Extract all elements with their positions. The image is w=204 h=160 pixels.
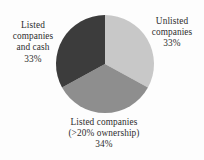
pie-label-listed-companies-ownership-value: 34% — [48, 139, 160, 150]
pie-label-listed-companies-ownership-line-1: Listed companies — [48, 117, 160, 128]
pie-chart-figure: Unlisted companies 33% Listed companies … — [0, 0, 204, 160]
pie-label-listed-companies-and-cash-line-3: and cash — [2, 42, 64, 53]
pie-label-listed-companies-ownership-line-2: (>20% ownership) — [48, 128, 160, 139]
pie-label-unlisted-companies-value: 33% — [140, 38, 204, 49]
pie-label-unlisted-companies-line-1: Unlisted — [140, 16, 204, 27]
pie-label-listed-companies-ownership: Listed companies (>20% ownership) 34% — [48, 117, 160, 151]
pie-label-listed-companies-and-cash-line-1: Listed — [2, 20, 64, 31]
pie-label-unlisted-companies: Unlisted companies 33% — [140, 16, 204, 50]
pie-label-listed-companies-and-cash: Listed companies and cash 33% — [2, 20, 64, 65]
pie-label-listed-companies-and-cash-line-2: companies — [2, 31, 64, 42]
pie-label-unlisted-companies-line-2: companies — [140, 27, 204, 38]
pie-label-listed-companies-and-cash-value: 33% — [2, 54, 64, 65]
